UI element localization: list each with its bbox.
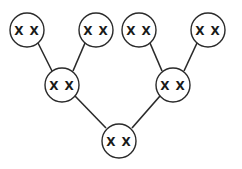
edge-mid1-bottom (75, 96, 106, 128)
node-top-3: X X (122, 13, 156, 47)
edge-top1-mid1 (38, 43, 52, 71)
node-top-4: X X (191, 13, 225, 47)
edge-mid2-bottom (132, 96, 160, 128)
node-label: X X (160, 79, 186, 93)
node-top-1: X X (10, 13, 44, 47)
node-mid-1: X X (45, 68, 79, 102)
node-bottom: X X (102, 124, 136, 158)
tree-diagram: X X X X X X X X X X X X X X (0, 0, 242, 169)
tree-svg: X X X X X X X X X X X X X X (0, 0, 242, 169)
edge-top3-mid2 (150, 43, 162, 71)
node-label: X X (106, 135, 132, 149)
node-label: X X (83, 24, 109, 38)
node-label: X X (126, 24, 152, 38)
node-mid-2: X X (156, 68, 190, 102)
node-label: X X (49, 79, 75, 93)
node-label: X X (14, 24, 40, 38)
edge-top2-mid1 (73, 43, 85, 71)
node-label: X X (195, 24, 221, 38)
edge-top4-mid2 (184, 43, 197, 71)
node-top-2: X X (79, 13, 113, 47)
